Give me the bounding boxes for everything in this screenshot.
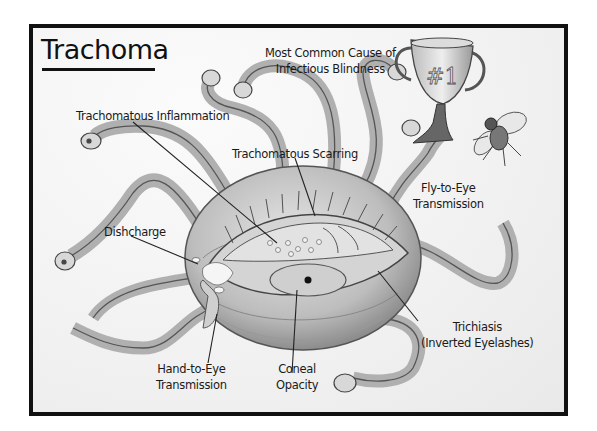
label-most-common-cause: Most Common Cause of Infectious Blindnes…	[265, 45, 396, 77]
trachoma-creature-illustration: #1	[33, 28, 564, 412]
label-hand-to-eye: Hand-to-Eye Transmission	[156, 361, 227, 393]
label-line: Trachomatous Scarring	[232, 146, 358, 162]
fly-icon	[470, 108, 530, 166]
label-line: Trachomatous Inflammation	[76, 108, 229, 124]
label-trachomatous-inflammation: Trachomatous Inflammation	[76, 108, 229, 124]
label-trichiasis: Trichiasis (Inverted Eyelashes)	[421, 319, 534, 351]
label-line: Transmission	[156, 377, 227, 393]
trophy-label: #1	[426, 64, 458, 89]
label-line: Infectious Blindness	[265, 61, 396, 77]
page-title: Trachoma	[41, 34, 169, 65]
label-line: Transmission	[413, 196, 484, 212]
label-corneal-opacity: Coneal Opacity	[276, 361, 318, 393]
label-line: Hand-to-Eye	[156, 361, 227, 377]
label-discharge: Dishcharge	[104, 224, 166, 240]
title-underline	[42, 68, 155, 71]
label-line: Trichiasis	[421, 319, 534, 335]
illustration-frame: #1 Trachoma Most Common Cause of	[29, 24, 568, 416]
label-line: Most Common Cause of	[265, 45, 396, 61]
label-line: Fly-to-Eye	[413, 180, 484, 196]
label-line: Coneal	[276, 361, 318, 377]
label-trachomatous-scarring: Trachomatous Scarring	[232, 146, 358, 162]
label-fly-to-eye: Fly-to-Eye Transmission	[413, 180, 484, 212]
label-line: (Inverted Eyelashes)	[421, 335, 534, 351]
label-line: Opacity	[276, 377, 318, 393]
label-line: Dishcharge	[104, 224, 166, 240]
